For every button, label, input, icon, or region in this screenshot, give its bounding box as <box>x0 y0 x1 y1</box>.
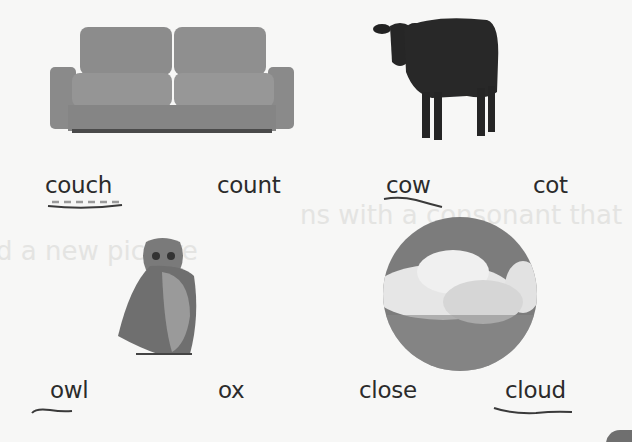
word-count[interactable]: count <box>217 172 280 198</box>
couch-underline-mark <box>40 198 130 212</box>
cloud-underline-mark <box>492 405 574 419</box>
word-owl[interactable]: owl <box>50 377 88 403</box>
cow-picture <box>372 12 522 142</box>
owl-picture <box>110 236 210 358</box>
cloud-picture <box>383 217 538 372</box>
couch-picture <box>50 25 295 135</box>
word-ox[interactable]: ox <box>218 377 244 403</box>
cow-underline-mark <box>382 194 444 210</box>
owl-underline-mark <box>30 405 76 419</box>
word-couch[interactable]: couch <box>45 172 112 198</box>
page-corner-tab <box>606 430 632 442</box>
word-cloud[interactable]: cloud <box>505 377 566 403</box>
word-cot[interactable]: cot <box>533 172 568 198</box>
word-close[interactable]: close <box>359 377 417 403</box>
